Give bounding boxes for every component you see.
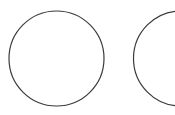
drawing-canvas — [0, 0, 175, 115]
canvas-background — [0, 0, 175, 115]
figure-svg — [0, 0, 175, 115]
